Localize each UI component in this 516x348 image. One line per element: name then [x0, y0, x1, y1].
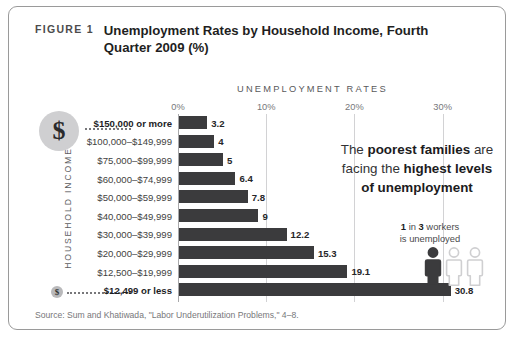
category-label: $12,500–$19,999 — [72, 267, 172, 278]
person-icon-filled — [423, 246, 443, 288]
bar — [179, 265, 347, 278]
bar-value-label: 5 — [227, 155, 232, 166]
category-label: $20,000–$29,999 — [72, 248, 172, 259]
bar — [179, 116, 207, 129]
callout-line1-bold: poorest families — [368, 142, 471, 157]
category-label: $75,000–$99,999 — [72, 155, 172, 166]
bar — [179, 228, 287, 241]
callout-line1-prefix: The — [341, 142, 368, 157]
callout-line2-bold: highest levels — [404, 161, 493, 176]
figure-card: FIGURE 1Unemployment Rates by Household … — [8, 6, 506, 330]
pictogram-caption-line2: is unemployed — [400, 233, 460, 244]
bar — [179, 135, 214, 148]
bar — [179, 246, 314, 259]
category-label: $12,499 or less — [72, 285, 172, 296]
pictogram-figures — [423, 246, 489, 288]
category-label: $30,000–$39,999 — [72, 229, 172, 240]
bar-value-label: 3.2 — [211, 118, 224, 129]
bar-value-label: 4 — [218, 136, 223, 147]
callout-line2-prefix: facing the — [342, 161, 404, 176]
bar-value-label: 19.1 — [351, 266, 370, 277]
bar-value-label: 6.4 — [239, 173, 252, 184]
bar — [179, 153, 223, 166]
pictogram-text-end: workers — [424, 221, 459, 232]
category-label: $60,000–$74,999 — [72, 174, 172, 185]
bar — [179, 190, 248, 203]
bar-value-label: 15.3 — [318, 248, 337, 259]
bar — [179, 283, 451, 296]
bar-value-label: 7.8 — [252, 192, 265, 203]
bar-value-label: 12.2 — [291, 229, 310, 240]
bar — [179, 209, 258, 222]
category-label: $50,000–$59,999 — [72, 192, 172, 203]
category-label: $100,000–$149,999 — [72, 136, 172, 147]
pictogram-caption: 1 in 3 workers is unemployed — [367, 221, 493, 245]
callout-text: The poorest families are facing the high… — [331, 140, 503, 197]
bar — [179, 172, 235, 185]
category-label: $40,000–$49,999 — [72, 211, 172, 222]
bar-value-label: 9 — [262, 211, 267, 222]
callout-line3-bold: of unemployment — [361, 180, 473, 195]
person-icon-outline — [465, 246, 485, 288]
person-icon-outline — [444, 246, 464, 288]
pictogram-text-mid: in — [406, 221, 419, 232]
callout-line1-suffix: are — [470, 142, 493, 157]
category-label: $150,000 or more — [72, 118, 172, 129]
source-note: Source: Sum and Khatiwada, "Labor Underu… — [35, 310, 299, 320]
